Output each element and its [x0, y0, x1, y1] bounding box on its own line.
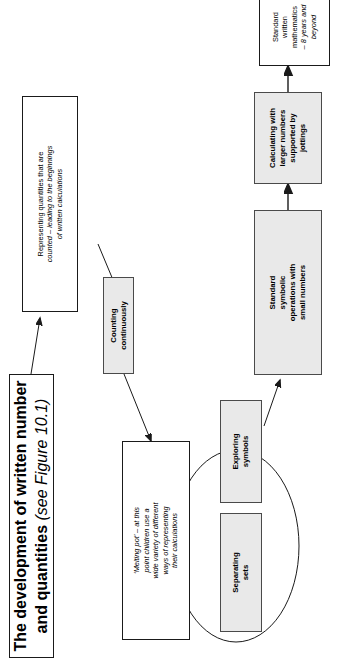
connector-group-to-standard-symbolic [264, 380, 280, 426]
node-melting-pot-label: ‘Melting pot’ – at this point children u… [132, 503, 179, 579]
node-title-text: The development of written number and qu… [11, 379, 52, 653]
node-representing-quantities-line1: Representing quantities that are [36, 152, 45, 257]
node-melting-pot[interactable]: ‘Melting pot’ – at this point children u… [122, 441, 190, 640]
connector-title-to-representing [31, 318, 40, 374]
node-exploring-symbols[interactable]: Exploring symbols [220, 400, 262, 503]
node-representing-quantities[interactable]: Representing quantities that are counted… [22, 96, 78, 312]
node-calculating-larger-numbers-label: Calculating with larger numbers supporte… [268, 108, 308, 168]
node-standard-written-mathematics-line2: – 8 years and beyond [299, 5, 317, 50]
node-separating-sets[interactable]: Separating sets [220, 513, 262, 632]
node-exploring-symbols-label: Exploring symbols [231, 434, 251, 470]
node-representing-quantities-line2: counted – leading to the beginnings of w… [45, 146, 63, 263]
node-counting-continuously[interactable]: Counting continuously [103, 277, 134, 374]
node-title-note: (see Figure 10.1) [33, 399, 50, 521]
node-representing-quantities-text: Representing quantities that are counted… [36, 146, 64, 263]
node-standard-written-mathematics[interactable]: Standard written mathematics – 8 years a… [259, 0, 330, 66]
node-separating-sets-label: Separating sets [231, 552, 251, 592]
node-counting-continuously-label: Counting continuously [109, 301, 129, 350]
connector-counting-to-melting-pot [124, 374, 151, 441]
node-standard-written-mathematics-line1: Standard written mathematics [271, 6, 299, 48]
node-standard-symbolic-operations-label: Standard symbolic operations with small … [268, 264, 308, 322]
node-standard-written-mathematics-text: Standard written mathematics – 8 years a… [271, 5, 318, 50]
node-calculating-larger-numbers[interactable]: Calculating with larger numbers supporte… [254, 92, 322, 184]
node-standard-symbolic-operations[interactable]: Standard symbolic operations with small … [254, 210, 322, 375]
figure-canvas: The development of written number and qu… [0, 0, 337, 668]
node-title-development-of-written-number[interactable]: The development of written number and qu… [9, 374, 54, 658]
